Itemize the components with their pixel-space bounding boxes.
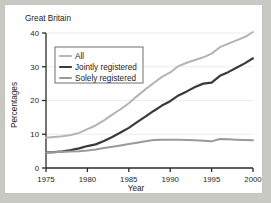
series-line: [46, 139, 253, 153]
chart-figure: Great Britain 010203040 1975198019851990…: [4, 4, 263, 194]
x-tick-label: 1985: [120, 175, 138, 184]
y-tick-label: 30: [30, 63, 39, 72]
x-axis-title: Year: [128, 184, 145, 193]
y-tick-label: 20: [30, 96, 39, 105]
chart-legend: AllJointly registeredSolely registered: [55, 47, 143, 83]
x-tick-label: 2000: [244, 175, 262, 184]
x-tick-label: 1980: [79, 175, 97, 184]
x-tick-label: 1995: [203, 175, 221, 184]
y-tick-label: 0: [35, 164, 40, 173]
y-tick-label: 10: [30, 130, 39, 139]
y-axis-title: Percentages: [10, 82, 19, 128]
y-tick-labels: 010203040: [30, 29, 39, 173]
legend-label: Solely registered: [75, 74, 136, 83]
x-tick-label: 1990: [162, 175, 180, 184]
x-tick-label: 1975: [37, 175, 55, 184]
line-chart: Great Britain 010203040 1975198019851990…: [5, 5, 264, 195]
x-tick-labels: 197519801985199019952000: [37, 175, 262, 184]
legend-label: Jointly registered: [75, 63, 137, 72]
region-title: Great Britain: [25, 14, 71, 23]
legend-label: All: [75, 52, 84, 61]
y-tick-label: 40: [30, 29, 39, 38]
